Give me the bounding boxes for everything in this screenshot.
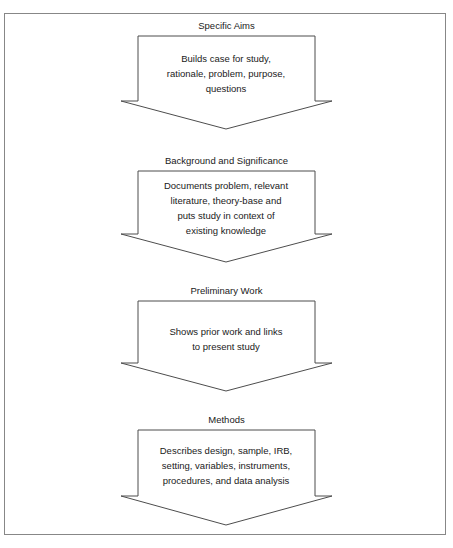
stage-body-specific-aims: Builds case for study, rationale, proble…: [137, 51, 315, 96]
stage-body-line: Builds case for study,: [137, 51, 315, 66]
stage-body-line: setting, variables, instruments,: [135, 458, 317, 473]
flow-diagram: Specific Aims Builds case for study, rat…: [0, 0, 453, 548]
stage-label-specific-aims: Specific Aims: [0, 20, 453, 32]
stage-label-methods: Methods: [0, 414, 453, 426]
stage-body-preliminary-work: Shows prior work and links to present st…: [137, 324, 315, 354]
stage-body-line: to present study: [137, 339, 315, 354]
stage-body-line: literature, theory-base and: [137, 193, 315, 208]
stage-body-background-and-significance: Documents problem, relevant literature, …: [137, 178, 315, 238]
stage-label-preliminary-work: Preliminary Work: [0, 285, 453, 297]
stage-body-line: Describes design, sample, IRB,: [135, 443, 317, 458]
stage-body-line: puts study in context of: [137, 208, 315, 223]
stage-body-line: rationale, problem, purpose,: [137, 66, 315, 81]
stage-body-line: Shows prior work and links: [137, 324, 315, 339]
stage-body-methods: Describes design, sample, IRB, setting, …: [135, 443, 317, 488]
stage-label-background-and-significance: Background and Significance: [0, 155, 453, 167]
stage-body-line: questions: [137, 81, 315, 96]
stage-body-line: existing knowledge: [137, 223, 315, 238]
stage-body-line: Documents problem, relevant: [137, 178, 315, 193]
stage-body-line: procedures, and data analysis: [135, 473, 317, 488]
